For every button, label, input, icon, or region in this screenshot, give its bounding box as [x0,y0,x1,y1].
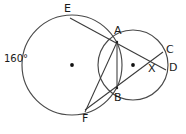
large-circle-center-dot [70,63,74,67]
point-label-F: F [82,113,88,124]
point-label-D: D [169,62,177,73]
secant-F-to-C [85,52,163,110]
small-circle-center-dot [131,63,135,67]
geometry-canvas [0,0,186,134]
point-marker-A [116,41,118,43]
point-label-X: X [148,63,156,74]
geometry-diagram: E A C D X B F 160° [0,0,186,134]
point-label-E: E [64,3,71,14]
point-marker-B [116,87,118,89]
point-label-B: B [114,92,122,103]
arc-measure-label: 160° [4,54,28,64]
point-label-C: C [166,44,174,55]
point-label-A: A [114,25,122,36]
segment-F-to-A [85,42,117,112]
